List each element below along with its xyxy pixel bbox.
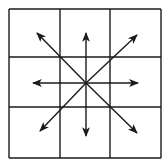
arrow-southeast-icon [86,83,137,133]
direction-grid-diagram [0,0,164,165]
arrow-northwest-icon [37,33,86,83]
arrows [33,33,138,136]
arrow-northeast-icon [86,35,137,83]
